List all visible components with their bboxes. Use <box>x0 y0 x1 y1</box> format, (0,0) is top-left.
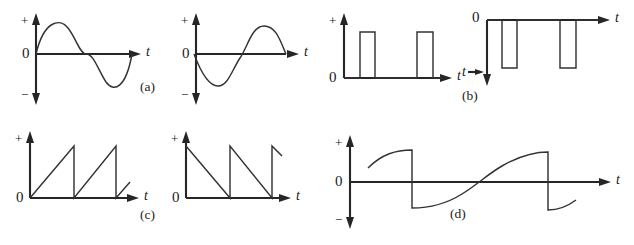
waveform-sawtooth-falling <box>186 146 282 198</box>
waveform-pulse-train-negative <box>487 20 600 68</box>
axis-label-time-vertical: t <box>462 65 466 79</box>
panel-caption-d: (d) <box>450 207 466 221</box>
axis-label-plus: + <box>329 14 336 27</box>
vertical-axis-down-arrowhead <box>483 74 491 86</box>
horizontal-axis-arrowhead <box>599 178 611 186</box>
vertical-axis-up-arrowhead <box>26 131 34 143</box>
axis-label-minus: − <box>335 213 342 226</box>
panel-a-sine-positive-first: + − 0 t <box>0 0 160 120</box>
axis-label-zero: 0 <box>172 190 180 205</box>
vertical-axis-down-arrowhead <box>32 93 40 105</box>
panel-b-left-svg <box>318 0 473 120</box>
waveform-figure: + − 0 t (a) + − 0 t <box>0 0 634 245</box>
panel-d-svg <box>320 124 634 245</box>
axis-label-plus: + <box>181 14 188 27</box>
axis-label-time: t <box>457 69 461 83</box>
axis-label-zero: 0 <box>472 10 480 25</box>
axis-label-plus: + <box>171 132 178 145</box>
axis-label-zero: 0 <box>16 190 24 205</box>
axis-label-minus: − <box>181 88 188 101</box>
waveform-pulse-train-positive <box>344 32 442 78</box>
vertical-axis-up-arrowhead <box>346 135 354 147</box>
panel-b-pulses-positive: + 0 t <box>318 0 473 120</box>
horizontal-axis-arrowhead <box>279 194 291 202</box>
axis-label-plus: + <box>21 14 28 27</box>
axis-label-time: t <box>144 189 148 203</box>
axis-label-minus: − <box>21 88 28 101</box>
axis-label-zero: 0 <box>329 70 337 85</box>
down-axis-pointer-arrowhead <box>475 69 484 75</box>
panel-caption-c: (c) <box>140 208 155 222</box>
horizontal-axis-arrowhead <box>287 50 299 58</box>
vertical-axis-down-arrowhead <box>192 93 200 105</box>
axis-label-time: t <box>296 189 300 203</box>
vertical-axis-up-arrowhead <box>32 13 40 25</box>
panel-a-sine-negative-first: + − 0 t <box>160 0 320 120</box>
horizontal-axis-arrowhead <box>127 194 139 202</box>
panel-c-right-svg <box>160 124 320 242</box>
panel-c-sawtooth-falling: + 0 t <box>160 124 320 242</box>
axis-label-zero: 0 <box>22 46 30 61</box>
axis-label-time: t <box>146 45 150 59</box>
vertical-axis-up-arrowhead <box>192 13 200 25</box>
panel-b-pulses-negative: 0 t t <box>462 0 634 120</box>
waveform-sine-negative-first <box>194 26 286 86</box>
panel-b-right-svg <box>462 0 634 120</box>
axis-label-plus: + <box>15 132 22 145</box>
waveform-sawtooth-rising <box>30 146 130 198</box>
axis-label-time: t <box>616 173 620 187</box>
axis-label-time: t <box>304 45 308 59</box>
axis-label-time: t <box>615 11 619 25</box>
axis-label-plus: + <box>335 136 342 149</box>
vertical-axis-up-arrowhead <box>182 131 190 143</box>
panel-c-left-svg <box>0 124 160 242</box>
panel-caption-b: (b) <box>462 89 478 103</box>
panel-d-distorted-sawtooth: + − 0 t (d) <box>320 124 634 245</box>
waveform-distorted-sawtooth-sine <box>368 150 576 210</box>
axis-label-zero: 0 <box>182 46 190 61</box>
vertical-axis-down-arrowhead <box>346 217 354 229</box>
panel-caption-a: (a) <box>140 80 155 94</box>
panel-c-sawtooth-rising: + 0 t <box>0 124 160 242</box>
vertical-axis-up-arrowhead <box>340 13 348 25</box>
axis-label-zero: 0 <box>335 174 343 189</box>
